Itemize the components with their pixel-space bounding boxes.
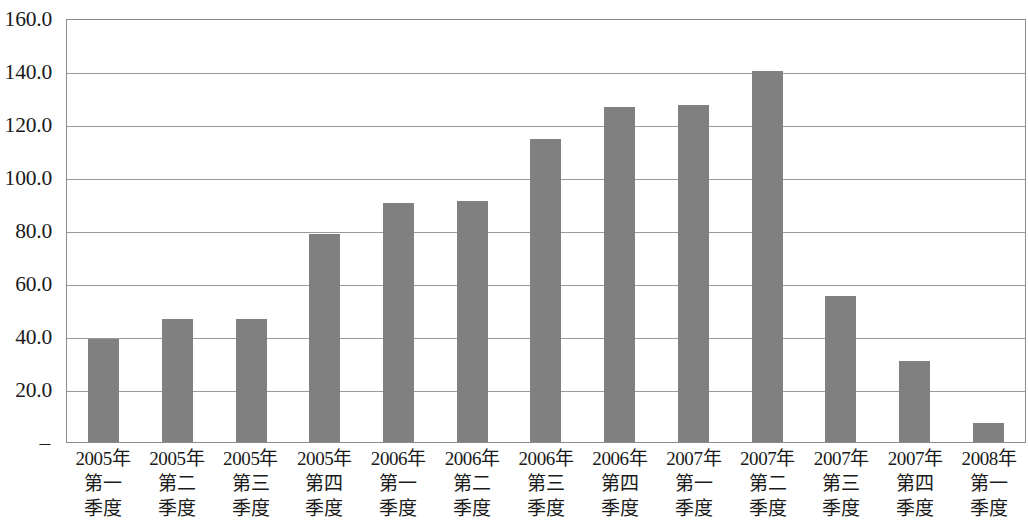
y-tick-label: 40.0 bbox=[15, 325, 52, 350]
x-label-year: 2006年 bbox=[361, 446, 435, 471]
x-label-year: 2005年 bbox=[66, 446, 140, 471]
y-tick-label: 80.0 bbox=[15, 219, 52, 244]
x-label-unit: 季度 bbox=[214, 496, 288, 521]
bar[interactable] bbox=[752, 71, 783, 442]
x-label-quarter: 第二 bbox=[435, 471, 509, 496]
x-label-quarter: 第四 bbox=[583, 471, 657, 496]
bar-slot bbox=[878, 20, 952, 442]
bar-slot bbox=[657, 20, 731, 442]
x-label-quarter: 第一 bbox=[952, 471, 1026, 496]
x-label-quarter: 第一 bbox=[657, 471, 731, 496]
x-tick-label: 2007年第二季度 bbox=[731, 446, 805, 525]
bar-slot bbox=[214, 20, 288, 442]
bar-slot bbox=[362, 20, 436, 442]
x-label-unit: 季度 bbox=[583, 496, 657, 521]
bar[interactable] bbox=[973, 423, 1004, 442]
bar[interactable] bbox=[899, 361, 930, 442]
x-label-quarter: 第三 bbox=[214, 471, 288, 496]
x-label-unit: 季度 bbox=[140, 496, 214, 521]
y-tick-label: 160.0 bbox=[5, 7, 52, 32]
bar[interactable] bbox=[162, 319, 193, 442]
x-label-year: 2005年 bbox=[214, 446, 288, 471]
x-tick-label: 2005年第三季度 bbox=[214, 446, 288, 525]
x-tick-label: 2006年第二季度 bbox=[435, 446, 509, 525]
x-tick-label: 2007年第一季度 bbox=[657, 446, 731, 525]
x-label-quarter: 第四 bbox=[878, 471, 952, 496]
x-tick-label: 2005年第一季度 bbox=[66, 446, 140, 525]
bar[interactable] bbox=[825, 296, 856, 442]
x-tick-label: 2006年第三季度 bbox=[509, 446, 583, 525]
x-label-year: 2007年 bbox=[878, 446, 952, 471]
x-tick-label: 2005年第二季度 bbox=[140, 446, 214, 525]
x-label-unit: 季度 bbox=[509, 496, 583, 521]
bar-slot bbox=[804, 20, 878, 442]
x-label-unit: 季度 bbox=[657, 496, 731, 521]
bar-slot bbox=[141, 20, 215, 442]
y-tick-label: 140.0 bbox=[5, 60, 52, 85]
x-label-year: 2006年 bbox=[435, 446, 509, 471]
y-tick-label: 100.0 bbox=[5, 166, 52, 191]
x-label-year: 2005年 bbox=[140, 446, 214, 471]
x-label-year: 2008年 bbox=[952, 446, 1026, 471]
bar[interactable] bbox=[88, 339, 119, 442]
bars-container bbox=[67, 20, 1025, 442]
x-label-year: 2006年 bbox=[583, 446, 657, 471]
x-label-year: 2007年 bbox=[804, 446, 878, 471]
x-label-unit: 季度 bbox=[66, 496, 140, 521]
bar[interactable] bbox=[383, 203, 414, 442]
bar[interactable] bbox=[530, 139, 561, 442]
x-label-unit: 季度 bbox=[804, 496, 878, 521]
y-axis: –20.040.060.080.0100.0120.0140.0160.0 bbox=[0, 0, 58, 525]
x-label-year: 2005年 bbox=[288, 446, 362, 471]
x-label-quarter: 第四 bbox=[288, 471, 362, 496]
bar-slot bbox=[583, 20, 657, 442]
x-label-unit: 季度 bbox=[731, 496, 805, 521]
x-label-year: 2007年 bbox=[731, 446, 805, 471]
y-tick-label: – bbox=[39, 431, 50, 456]
x-tick-label: 2005年第四季度 bbox=[288, 446, 362, 525]
y-tick-label: 120.0 bbox=[5, 113, 52, 138]
x-label-year: 2007年 bbox=[657, 446, 731, 471]
x-label-year: 2006年 bbox=[509, 446, 583, 471]
x-tick-label: 2006年第一季度 bbox=[361, 446, 435, 525]
bar[interactable] bbox=[236, 319, 267, 442]
bar-slot bbox=[435, 20, 509, 442]
bar-slot bbox=[730, 20, 804, 442]
x-label-quarter: 第三 bbox=[509, 471, 583, 496]
x-label-unit: 季度 bbox=[952, 496, 1026, 521]
x-label-quarter: 第一 bbox=[361, 471, 435, 496]
x-tick-label: 2008年第一季度 bbox=[952, 446, 1026, 525]
bar[interactable] bbox=[457, 201, 488, 442]
x-label-quarter: 第一 bbox=[66, 471, 140, 496]
bar-slot bbox=[288, 20, 362, 442]
y-tick-label: 20.0 bbox=[15, 378, 52, 403]
x-label-unit: 季度 bbox=[361, 496, 435, 521]
y-tick-label: 60.0 bbox=[15, 272, 52, 297]
x-tick-label: 2007年第四季度 bbox=[878, 446, 952, 525]
bar-slot bbox=[509, 20, 583, 442]
x-label-quarter: 第三 bbox=[804, 471, 878, 496]
x-label-unit: 季度 bbox=[878, 496, 952, 521]
bar[interactable] bbox=[678, 105, 709, 442]
plot-area bbox=[66, 19, 1026, 443]
x-label-quarter: 第二 bbox=[140, 471, 214, 496]
x-label-quarter: 第二 bbox=[731, 471, 805, 496]
x-label-unit: 季度 bbox=[435, 496, 509, 521]
bar[interactable] bbox=[309, 234, 340, 442]
x-tick-label: 2007年第三季度 bbox=[804, 446, 878, 525]
x-label-unit: 季度 bbox=[288, 496, 362, 521]
x-axis: 2005年第一季度2005年第二季度2005年第三季度2005年第四季度2006… bbox=[66, 446, 1026, 525]
bar-chart: –20.040.060.080.0100.0120.0140.0160.0 20… bbox=[0, 0, 1028, 525]
bar-slot bbox=[951, 20, 1025, 442]
bar-slot bbox=[67, 20, 141, 442]
bar[interactable] bbox=[604, 107, 635, 442]
x-tick-label: 2006年第四季度 bbox=[583, 446, 657, 525]
